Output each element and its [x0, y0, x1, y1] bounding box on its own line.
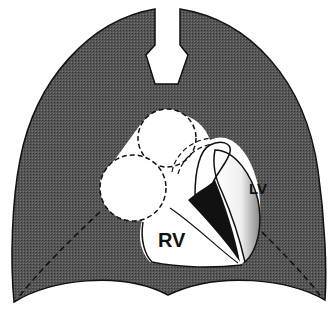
label-rv: RV — [158, 229, 186, 251]
right-atrium-circle — [100, 155, 166, 221]
label-lv: LV — [249, 180, 267, 197]
chest-heart-diagram: RV LV — [0, 0, 335, 320]
